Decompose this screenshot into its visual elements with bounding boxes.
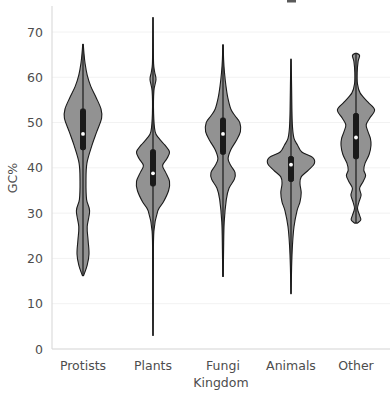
y-tick-label-20: 20 [27, 251, 43, 266]
y-tick-label-40: 40 [27, 160, 43, 175]
violin-median-animals [289, 163, 293, 167]
y-tick-label-50: 50 [27, 115, 43, 130]
violin-median-other [354, 136, 358, 140]
chart-canvas: 010203040506070 ProtistsPlantsFungiAnima… [0, 0, 392, 398]
violin-box-animals [289, 157, 294, 182]
x-tick-label-other: Other [338, 358, 374, 373]
violin-median-fungi [221, 132, 225, 136]
x-tick-label-plants: Plants [134, 358, 172, 373]
clipped-title-fragment [287, 0, 296, 3]
y-tick-label-30: 30 [27, 206, 43, 221]
y-axis-title: GC% [5, 163, 20, 193]
violin-median-protists [81, 132, 85, 136]
violin-box-plants [151, 150, 156, 186]
y-tick-label-10: 10 [27, 296, 43, 311]
y-tick-label-0: 0 [35, 342, 43, 357]
violin-box-fungi [221, 118, 226, 154]
y-tick-label-60: 60 [27, 70, 43, 85]
x-axis-title: Kingdom [193, 375, 248, 390]
violin-median-plants [151, 171, 155, 175]
violin-chart-figure: 010203040506070 ProtistsPlantsFungiAnima… [0, 0, 392, 398]
violin-box-protists [81, 109, 86, 150]
x-tick-label-fungi: Fungi [206, 358, 240, 373]
y-tick-label-70: 70 [27, 25, 43, 40]
x-tick-label-animals: Animals [266, 358, 316, 373]
x-tick-label-protists: Protists [60, 358, 106, 373]
chart-background [0, 0, 392, 398]
